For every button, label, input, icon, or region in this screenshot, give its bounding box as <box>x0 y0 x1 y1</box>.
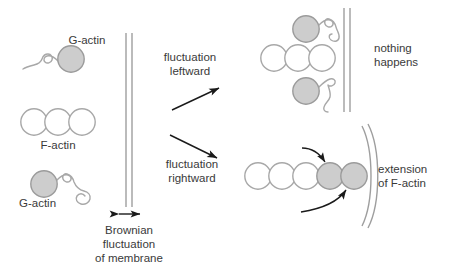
g-actin-monomer-top <box>23 46 84 72</box>
membrane-caption-line2: fluctuation <box>79 237 179 251</box>
f-actin-added-monomers-br <box>317 163 367 189</box>
transition-arrow-leftward <box>172 88 219 110</box>
membrane-caption-line3: of membrane <box>79 251 179 265</box>
membrane-straight-top-right <box>344 8 350 112</box>
transition-arrow-rightward <box>170 135 217 158</box>
outcome-nothing-happens-line1: nothing <box>374 41 452 55</box>
g-actin-monomer-tr-upper <box>293 16 339 42</box>
outcome-nothing-happens-line2: happens <box>374 55 452 69</box>
transition-rightward-line2: rightward <box>152 171 232 185</box>
panel-extension-of-f-actin <box>245 124 378 228</box>
g-actin-bottom-label: G-actin <box>19 196 95 210</box>
brownian-ratchet-figure: G-actin F-actin G-actin Brownian fluctua… <box>0 0 455 274</box>
f-actin-filament-tr <box>261 45 335 71</box>
outcome-extension-line2: of F-actin <box>378 176 455 190</box>
transition-leftward-line1: fluctuation <box>152 50 228 64</box>
f-actin-filament-left <box>21 109 95 135</box>
f-actin-filament-br <box>245 163 319 189</box>
transition-leftward-line2: leftward <box>152 64 228 78</box>
g-actin-monomer-tr-lower <box>293 78 335 112</box>
f-actin-label: F-actin <box>20 138 96 152</box>
monomer-insertion-arrow-lower <box>301 190 346 212</box>
outcome-extension-line1: extension <box>378 162 455 176</box>
membrane-caption-line1: Brownian <box>79 223 179 237</box>
transition-rightward-line1: fluctuation <box>152 157 232 171</box>
membrane-straight-left <box>126 33 132 207</box>
monomer-insertion-arrow-upper <box>302 148 325 162</box>
g-actin-top-label: G-actin <box>49 33 125 47</box>
panel-nothing-happens <box>261 8 350 112</box>
